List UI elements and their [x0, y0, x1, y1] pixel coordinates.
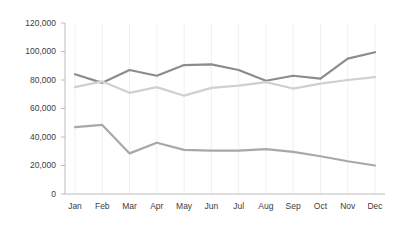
y-tick-marks: [61, 23, 65, 194]
x-axis-tick-label-sep: Sep: [278, 202, 308, 211]
x-axis-tick-label-jan: Jan: [60, 202, 90, 211]
line-chart: 020,00040,00060,00080,000100,000120,000 …: [0, 0, 400, 225]
series-lines: [75, 52, 375, 165]
series-line-series-dark: [75, 52, 375, 83]
chart-plot-area: [0, 0, 400, 225]
y-axis-tick-label: 120,000: [8, 19, 56, 28]
y-axis-tick-label: 60,000: [8, 104, 56, 113]
y-axis-tick-label: 20,000: [8, 161, 56, 170]
x-axis-tick-label-apr: Apr: [142, 202, 172, 211]
y-axis-tick-label: 40,000: [8, 133, 56, 142]
series-line-series-mid: [75, 125, 375, 166]
x-axis-tick-label-dec: Dec: [360, 202, 390, 211]
x-axis-tick-label-jun: Jun: [196, 202, 226, 211]
y-axis-tick-label: 100,000: [8, 47, 56, 56]
y-axis-tick-label: 0: [8, 190, 56, 199]
x-axis-tick-label-may: May: [169, 202, 199, 211]
x-axis-tick-label-oct: Oct: [305, 202, 335, 211]
x-axis-tick-label-mar: Mar: [115, 202, 145, 211]
x-axis-tick-label-nov: Nov: [333, 202, 363, 211]
series-line-series-light: [75, 77, 375, 96]
x-axis-tick-label-jul: Jul: [224, 202, 254, 211]
x-axis-tick-label-feb: Feb: [87, 202, 117, 211]
x-axis-tick-label-aug: Aug: [251, 202, 281, 211]
gridlines: [75, 23, 375, 194]
y-axis-tick-label: 80,000: [8, 76, 56, 85]
